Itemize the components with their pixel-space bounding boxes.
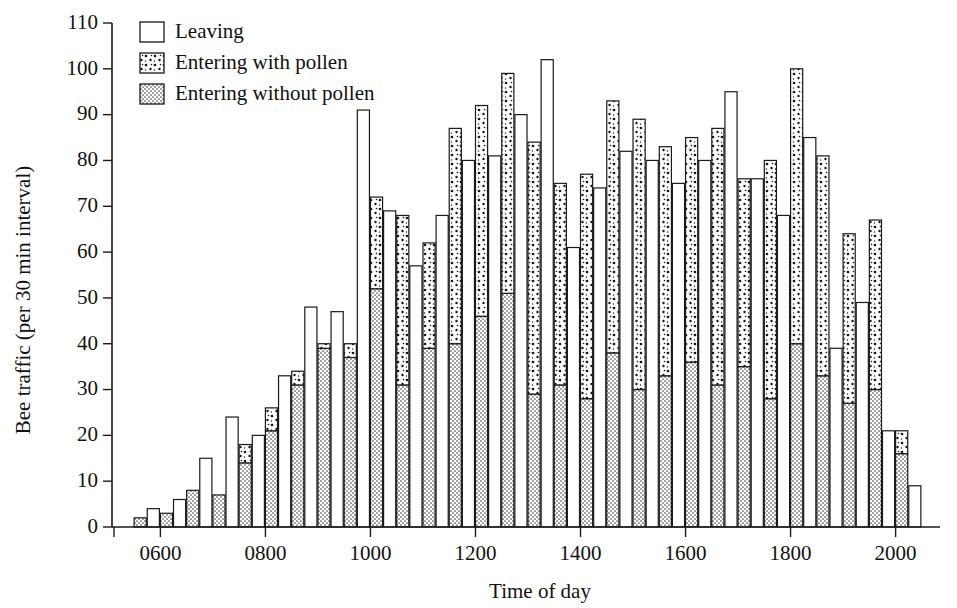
bar-entering-without-pollen xyxy=(528,394,540,527)
bar-leaving xyxy=(594,188,606,527)
bar-entering-with-pollen xyxy=(764,160,776,398)
y-tick-label: 80 xyxy=(77,147,98,171)
bar-entering-with-pollen xyxy=(370,197,382,289)
bar-leaving xyxy=(410,266,422,527)
bar-entering-without-pollen xyxy=(344,357,356,527)
bar-entering-without-pollen xyxy=(817,376,829,527)
legend-swatch-2 xyxy=(140,53,164,73)
bar-entering-with-pollen xyxy=(475,105,487,316)
bar-entering-with-pollen xyxy=(423,243,435,348)
bar-entering-without-pollen xyxy=(502,293,514,527)
bar-entering-without-pollen xyxy=(397,385,409,527)
bar-entering-without-pollen xyxy=(239,463,251,527)
bar-entering-with-pollen xyxy=(686,138,698,363)
bar-leaving xyxy=(279,376,291,527)
x-axis-ticks: 06000800100012001400160018002000 xyxy=(114,527,917,565)
y-tick-label: 110 xyxy=(67,10,98,34)
y-tick-label: 40 xyxy=(77,331,98,355)
x-tick-label: 0800 xyxy=(244,541,286,565)
y-tick-label: 20 xyxy=(77,422,98,446)
bar-leaving xyxy=(462,160,474,527)
x-tick-label: 1400 xyxy=(560,541,602,565)
legend-label: Entering without pollen xyxy=(175,81,375,105)
bar-leaving xyxy=(646,160,658,527)
chart-canvas: 0102030405060708090100110 06000800100012… xyxy=(0,0,957,608)
bar-entering-without-pollen xyxy=(738,367,750,527)
bar-entering-without-pollen xyxy=(659,376,671,527)
bar-entering-without-pollen xyxy=(213,495,225,527)
y-axis-title: Bee traffic (per 30 min interval) xyxy=(11,166,35,434)
y-tick-label: 90 xyxy=(77,101,98,125)
bar-leaving xyxy=(252,435,264,527)
bar-entering-without-pollen xyxy=(370,289,382,527)
x-tick-label: 0600 xyxy=(139,541,181,565)
bar-leaving xyxy=(882,431,894,527)
bar-entering-with-pollen xyxy=(659,147,671,376)
bar-leaving xyxy=(567,248,579,527)
bar-entering-without-pollen xyxy=(686,362,698,527)
bar-leaving xyxy=(777,215,789,527)
bar-entering-with-pollen xyxy=(607,101,619,353)
bar-entering-with-pollen xyxy=(554,183,566,385)
bar-entering-without-pollen xyxy=(318,348,330,527)
x-tick-label: 1800 xyxy=(770,541,812,565)
legend-label: Leaving xyxy=(175,19,244,43)
bar-entering-without-pollen xyxy=(265,431,277,527)
y-tick-label: 70 xyxy=(77,193,98,217)
bar-leaving xyxy=(200,458,212,527)
bar-leaving xyxy=(515,115,527,527)
y-tick-label: 100 xyxy=(67,56,99,80)
bar-entering-without-pollen xyxy=(791,344,803,527)
bar-leaving xyxy=(226,417,238,527)
bar-entering-with-pollen xyxy=(843,234,855,404)
bar-entering-with-pollen xyxy=(528,142,540,394)
bee-traffic-chart: 0102030405060708090100110 06000800100012… xyxy=(0,0,957,608)
x-tick-label: 1000 xyxy=(349,541,391,565)
legend-swatch-1 xyxy=(140,22,164,42)
bar-entering-with-pollen xyxy=(817,156,829,376)
bar-entering-without-pollen xyxy=(554,385,566,527)
bar-leaving xyxy=(436,215,448,527)
bar-entering-without-pollen xyxy=(134,518,146,527)
bar-entering-without-pollen xyxy=(581,399,593,527)
bar-entering-with-pollen xyxy=(239,445,251,463)
bar-entering-without-pollen xyxy=(160,513,172,527)
legend-swatch-3 xyxy=(140,84,164,104)
bar-leaving xyxy=(909,486,921,527)
bar-entering-without-pollen xyxy=(187,490,199,527)
bars-group xyxy=(134,60,921,527)
bar-leaving xyxy=(672,183,684,527)
bar-entering-with-pollen xyxy=(581,174,593,399)
x-axis-title: Time of day xyxy=(489,579,591,603)
x-tick-label: 1600 xyxy=(665,541,707,565)
bar-leaving xyxy=(830,348,842,527)
bar-entering-with-pollen xyxy=(397,215,409,385)
bar-entering-with-pollen xyxy=(869,220,881,390)
bar-entering-with-pollen xyxy=(738,179,750,367)
bar-entering-with-pollen xyxy=(318,344,330,349)
y-tick-label: 60 xyxy=(77,239,98,263)
x-tick-label: 2000 xyxy=(875,541,917,565)
bar-entering-without-pollen xyxy=(423,348,435,527)
bar-entering-with-pollen xyxy=(344,344,356,358)
y-tick-label: 10 xyxy=(77,468,98,492)
bar-leaving xyxy=(305,307,317,527)
bar-leaving xyxy=(699,160,711,527)
bar-entering-without-pollen xyxy=(764,399,776,527)
x-tick-label: 1200 xyxy=(454,541,496,565)
bar-leaving xyxy=(620,151,632,527)
chart-legend: LeavingEntering with pollenEntering with… xyxy=(140,19,375,105)
bar-leaving xyxy=(147,509,159,527)
bar-entering-with-pollen xyxy=(791,69,803,344)
bar-leaving xyxy=(331,312,343,527)
bar-entering-with-pollen xyxy=(292,371,304,385)
bar-entering-with-pollen xyxy=(712,128,724,385)
bar-entering-with-pollen xyxy=(265,408,277,431)
legend-label: Entering with pollen xyxy=(175,50,348,74)
y-tick-label: 30 xyxy=(77,376,98,400)
y-axis-ticks: 0102030405060708090100110 xyxy=(67,10,113,538)
bar-leaving xyxy=(357,110,369,527)
bar-leaving xyxy=(174,500,186,527)
bar-entering-with-pollen xyxy=(896,431,908,454)
y-tick-label: 50 xyxy=(77,285,98,309)
